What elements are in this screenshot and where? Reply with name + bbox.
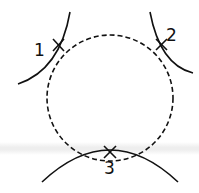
- cross-mark-3: [104, 146, 116, 158]
- diagram-canvas: 1 2 3: [0, 0, 199, 193]
- dashed-circle: [47, 35, 173, 161]
- point-label-1: 1: [34, 42, 45, 59]
- point-label-2: 2: [166, 27, 177, 44]
- point-label-3: 3: [104, 160, 115, 177]
